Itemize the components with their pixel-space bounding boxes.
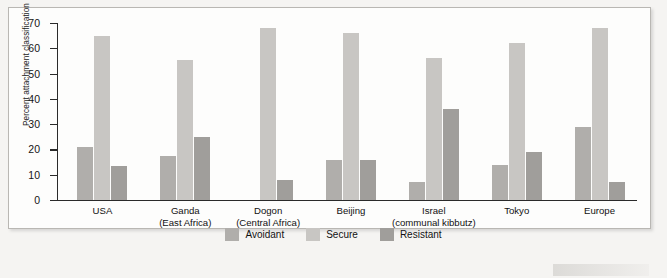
y-tick-10: 10 [50, 175, 57, 176]
bar-resistant [360, 160, 376, 200]
y-tick-label: 30 [28, 118, 40, 130]
y-tick-40: 40 [50, 99, 57, 100]
y-tick-0: 0 [50, 200, 57, 201]
legend-label: Secure [326, 229, 358, 240]
legend-label: Avoidant [245, 229, 284, 240]
x-axis-label-line2: (communal kibbutz) [369, 217, 499, 229]
x-axis-label-line1: Europe [584, 205, 615, 216]
x-axis-label-line1: Beijing [337, 205, 366, 216]
legend-swatch-avoidant [225, 228, 239, 241]
legend-item-secure: Secure [306, 228, 358, 241]
x-axis-label-line1: Israel [422, 205, 445, 216]
x-axis-label-line1: Dogon [254, 205, 282, 216]
y-tick-20: 20 [50, 149, 57, 150]
legend-item-resistant: Resistant [380, 228, 442, 241]
bar-group [77, 23, 127, 200]
bar-group [243, 23, 293, 200]
x-axis-label-line1: Tokyo [504, 205, 529, 216]
bar-resistant [443, 109, 459, 200]
y-tick-label: 70 [28, 17, 40, 29]
legend-label: Resistant [400, 229, 442, 240]
bar-resistant [277, 180, 293, 200]
legend-item-avoidant: Avoidant [225, 228, 284, 241]
chart-legend: AvoidantSecureResistant [0, 228, 667, 241]
x-axis-label-line1: USA [93, 205, 113, 216]
bar-avoidant [409, 182, 425, 200]
legend-swatch-resistant [380, 228, 394, 241]
bar-secure [260, 28, 276, 200]
y-tick-60: 60 [50, 48, 57, 49]
x-axis-line [57, 200, 637, 201]
y-tick-label: 50 [28, 68, 40, 80]
bar-avoidant [326, 160, 342, 200]
scan-artifact [553, 264, 649, 276]
bar-secure [592, 28, 608, 200]
bar-group [160, 23, 210, 200]
plot-area: 010203040506070 USAGanda(East Africa)Dog… [57, 23, 637, 200]
bar-group [575, 23, 625, 200]
bar-secure [426, 58, 442, 200]
bar-secure [94, 36, 110, 200]
bar-secure [177, 60, 193, 200]
bar-avoidant [492, 165, 508, 200]
bar-resistant [526, 152, 542, 200]
bar-resistant [194, 137, 210, 200]
bar-group [409, 23, 459, 200]
y-tick-30: 30 [50, 124, 57, 125]
figure-page: Percent attachment classification 010203… [0, 0, 667, 278]
y-axis-line [57, 23, 58, 201]
bar-group [492, 23, 542, 200]
x-axis-label-line2: (Central Africa) [203, 217, 333, 229]
bar-secure [343, 33, 359, 200]
y-tick-label: 20 [28, 143, 40, 155]
y-tick-label: 60 [28, 42, 40, 54]
bar-avoidant [77, 147, 93, 200]
y-tick-label: 40 [28, 93, 40, 105]
x-axis-label-line1: Ganda [171, 205, 200, 216]
chart-frame: Percent attachment classification 010203… [8, 7, 651, 229]
bar-secure [509, 43, 525, 200]
legend-swatch-secure [306, 228, 320, 241]
bar-group [326, 23, 376, 200]
bar-avoidant [575, 127, 591, 200]
y-tick-50: 50 [50, 74, 57, 75]
y-tick-70: 70 [50, 23, 57, 24]
bar-resistant [609, 182, 625, 200]
y-tick-label: 10 [28, 169, 40, 181]
bar-avoidant [160, 156, 176, 200]
bar-resistant [111, 166, 127, 200]
x-axis-label: Europe [535, 205, 665, 217]
